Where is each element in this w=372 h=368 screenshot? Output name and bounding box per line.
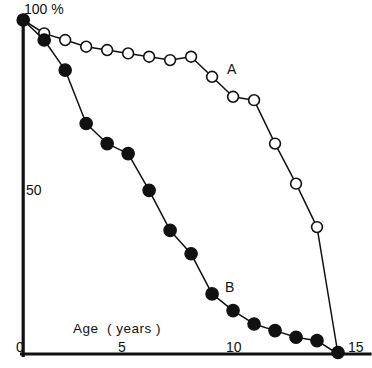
series-a-point [249,95,260,106]
series-a-point [186,51,197,62]
series-b-point [332,346,344,358]
series-b-point [206,288,218,300]
series-b-point [59,64,71,76]
series-a-point [81,41,92,52]
series-a-point [312,222,323,233]
series-a-point [123,48,134,59]
series-a-point [165,55,176,66]
series-b-point [269,324,281,336]
series-a-point [228,91,239,102]
series-b-point [227,304,239,316]
series-b-point [248,318,260,330]
chart-canvas [0,0,372,368]
chart-figure: 100 % 50 0 5 10 15 Age ( years ) A B [0,0,372,368]
series-b-point [122,147,134,159]
series-b-point [80,117,92,129]
axes-group [22,20,370,356]
series-b-point [101,137,113,149]
series-b-point [143,184,155,196]
series-a-point [60,35,71,46]
series-b-point [164,224,176,236]
series-a-point [207,71,218,82]
series-a-point [291,178,302,189]
series-b-point [38,34,50,46]
series-b-point [290,331,302,343]
series-a-point [144,51,155,62]
series-b-point [185,248,197,260]
series-b-point [17,14,29,26]
series-a-point [102,45,113,56]
series-a-point [270,138,281,149]
series-a-markers [18,15,323,233]
series-b-point [311,334,323,346]
